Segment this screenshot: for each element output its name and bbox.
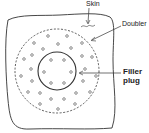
skin-leader (88, 8, 89, 23)
skin-squiggle (81, 25, 95, 27)
doubler-label: Doubler (122, 20, 147, 27)
filler-plug-label-line2: plug (123, 76, 142, 85)
doubler-leader (92, 26, 121, 40)
filler-plug-label: Filler plug (123, 67, 142, 85)
filler-plug-label-line1: Filler (123, 67, 142, 76)
skin-label: Skin (86, 0, 100, 7)
fasteners-outer (20, 35, 98, 111)
doubler-circle (15, 29, 99, 113)
fasteners-inner (43, 59, 73, 85)
skin-outline (6, 14, 115, 129)
